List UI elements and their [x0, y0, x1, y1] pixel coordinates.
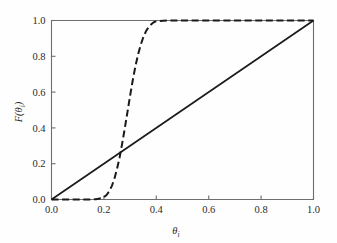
x-tick-label: 0.0 — [45, 204, 58, 215]
x-tick-label: 0.6 — [202, 204, 215, 215]
y-tick-label: 0.4 — [32, 123, 46, 134]
y-tick-label: 0.2 — [32, 158, 45, 169]
figure-container: 0.00.20.40.60.81.0 0.00.20.40.60.81.0 θi… — [0, 0, 337, 243]
x-tick-label: 0.4 — [150, 204, 164, 215]
chart-canvas: 0.00.20.40.60.81.0 0.00.20.40.60.81.0 θi… — [0, 0, 337, 243]
x-tick-label: 1.0 — [307, 204, 320, 215]
y-tick-label: 0.6 — [32, 87, 45, 98]
y-tick-label: 0.0 — [32, 194, 45, 205]
x-tick-label: 0.8 — [255, 204, 268, 215]
y-tick-label: 0.8 — [32, 51, 45, 62]
x-tick-label: 0.2 — [97, 204, 110, 215]
y-tick-label: 1.0 — [32, 15, 45, 26]
